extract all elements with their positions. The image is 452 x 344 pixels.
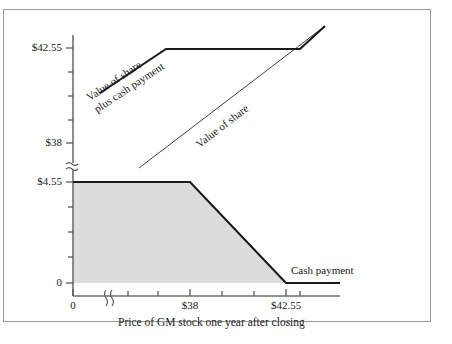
y-axis-break-icon-2 <box>66 168 78 171</box>
y-tick-label-4255: $42.55 <box>14 42 62 53</box>
annotation-cash-payment: Cash payment <box>291 265 354 276</box>
y-ticks-lower <box>66 182 73 283</box>
y-ticks-upper <box>66 48 73 143</box>
y-tick-label-38: $38 <box>14 137 62 148</box>
x-axis-break-icon <box>105 290 108 306</box>
y-axis-break-icon <box>66 163 78 166</box>
x-tick-label-4255: $42.55 <box>258 300 314 311</box>
x-axis-title: Price of GM stock one year after closing <box>118 317 305 329</box>
figure-root: $42.55 $38 $4.55 0 0 $38 $42.55 Price of… <box>0 0 452 344</box>
x-ticks <box>73 289 300 296</box>
y-tick-label-455: $4.55 <box>14 176 62 187</box>
y-tick-label-0: 0 <box>14 277 62 288</box>
x-tick-label-0: 0 <box>55 300 91 311</box>
x-tick-label-38: $38 <box>168 300 212 311</box>
value-of-share-line <box>139 26 325 168</box>
cash-payment-area <box>73 182 286 283</box>
x-axis-break-icon-2 <box>111 290 114 306</box>
chart-canvas <box>0 0 452 344</box>
